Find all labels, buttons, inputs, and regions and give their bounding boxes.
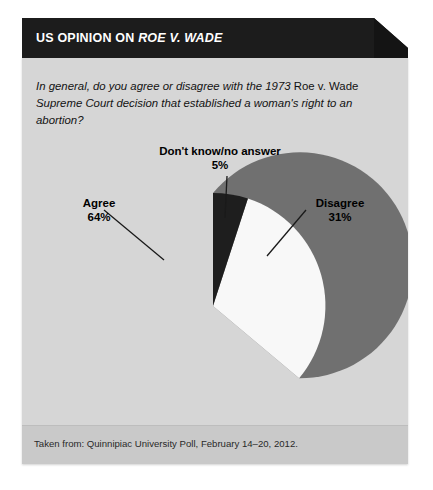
- slice-label-disagree-name: Disagree: [316, 197, 365, 209]
- page-title: US OPINION ON ROE V. WADE: [36, 31, 223, 45]
- pie-chart-svg: [22, 58, 408, 430]
- infographic-card: US OPINION ON ROE V. WADE In general, do…: [22, 18, 408, 464]
- title-case-name: ROE V. WADE: [138, 31, 222, 45]
- source-text: Taken from: Quinnipiac University Poll, …: [34, 438, 298, 449]
- slice-label-disagree: Disagree 31%: [300, 196, 380, 224]
- title-lead: US OPINION ON: [36, 31, 138, 45]
- pie-chart: Don't know/no answer 5% Agree 64% Disagr…: [22, 58, 408, 430]
- slice-label-dontknow-name: Don't know/no answer: [159, 145, 281, 157]
- slice-label-agree-pct: 64%: [62, 210, 136, 224]
- slice-label-dontknow-pct: 5%: [140, 158, 300, 172]
- source-footer: Taken from: Quinnipiac University Poll, …: [22, 425, 408, 464]
- slice-label-agree-name: Agree: [83, 197, 116, 209]
- slice-label-agree: Agree 64%: [62, 196, 136, 224]
- slice-label-dontknow: Don't know/no answer 5%: [140, 144, 300, 172]
- slice-label-disagree-pct: 31%: [300, 210, 380, 224]
